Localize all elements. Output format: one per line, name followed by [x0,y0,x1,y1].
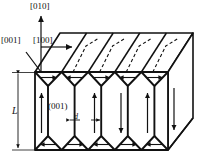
domain-structure-figure: [010] [001] [100] L (001) d [0,0,205,164]
axis-label-100: [100] [33,36,53,45]
axis-label-010: [010] [30,2,50,11]
axis-label-001: [001] [1,36,21,45]
axis-line-001 [26,52,41,72]
dimension-label-L: L [12,106,18,116]
dimension-label-d: d [74,113,78,121]
plane-label-001: (001) [48,102,68,111]
top-face [35,33,193,72]
top-face-outline [35,33,193,72]
figure-canvas [0,0,205,164]
